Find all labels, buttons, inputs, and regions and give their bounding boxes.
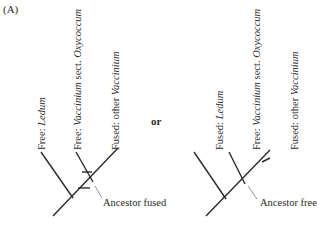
right-leader-line (248, 186, 257, 199)
left-trunk (53, 148, 118, 216)
left-branch-ledum (41, 152, 73, 198)
phylogeny-trees (0, 0, 329, 226)
left-branch-oxycoccum (76, 152, 93, 182)
right-branch-ledum (194, 152, 226, 199)
right-branch-oxycoccum (229, 152, 245, 184)
right-hash (262, 158, 270, 162)
left-leader-line (95, 186, 102, 198)
